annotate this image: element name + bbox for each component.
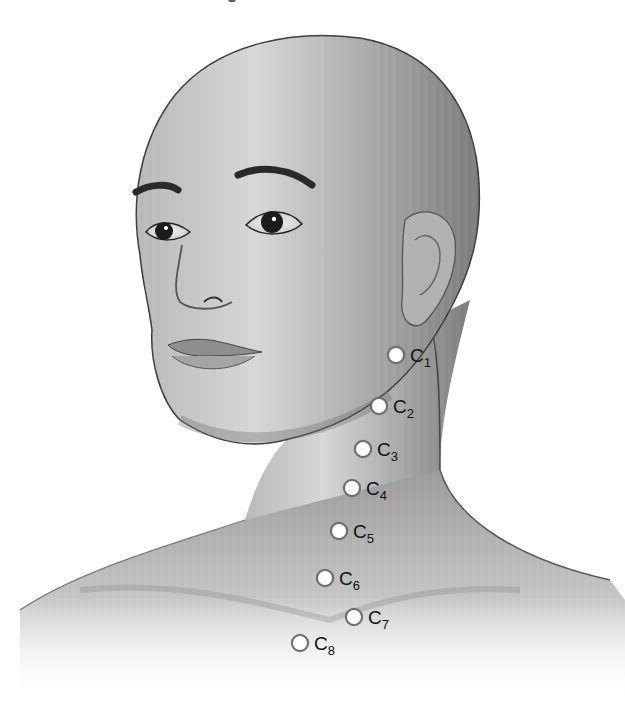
label-letter: C: [366, 478, 380, 499]
marker-c2: [370, 397, 388, 415]
cervical-dermatome-figure: C1 C2 C3 C4 C5 C6 C7 C8: [0, 0, 625, 710]
label-letter: C: [393, 396, 407, 417]
label-c4: C4: [366, 479, 387, 502]
label-subscript: 1: [424, 355, 431, 370]
label-subscript: 6: [353, 578, 360, 593]
label-letter: C: [314, 633, 328, 654]
label-letter: C: [368, 607, 382, 628]
marker-c8: [291, 634, 309, 652]
marker-c1: [387, 346, 405, 364]
label-c3: C3: [377, 440, 398, 463]
marker-c5: [330, 522, 348, 540]
label-subscript: 4: [380, 488, 387, 503]
label-c5: C5: [353, 522, 374, 545]
label-letter: C: [339, 568, 353, 589]
marker-c6: [316, 569, 334, 587]
label-subscript: 7: [382, 617, 389, 632]
marker-c3: [354, 440, 372, 458]
label-c7: C7: [368, 608, 389, 631]
label-c2: C2: [393, 397, 414, 420]
label-c1: C1: [410, 346, 431, 369]
label-subscript: 3: [391, 449, 398, 464]
label-letter: C: [410, 345, 424, 366]
label-subscript: 2: [407, 406, 414, 421]
label-c6: C6: [339, 569, 360, 592]
label-letter: C: [377, 439, 391, 460]
head-neck-illustration: [0, 0, 625, 710]
label-subscript: 5: [367, 531, 374, 546]
marker-c7: [345, 608, 363, 626]
label-c8: C8: [314, 634, 335, 657]
label-letter: C: [353, 521, 367, 542]
label-subscript: 8: [328, 643, 335, 658]
marker-c4: [343, 479, 361, 497]
